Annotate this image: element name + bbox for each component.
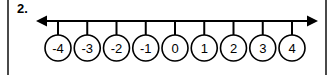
number-point-4[interactable]: 4	[279, 35, 305, 61]
worksheet-canvas: 2. -4-3-2-101234	[0, 0, 333, 75]
arrow-left-icon	[36, 16, 47, 27]
arrow-right-icon	[307, 16, 318, 27]
point-label: 1	[201, 41, 208, 56]
point-label: -3	[81, 41, 93, 56]
number-point--3[interactable]: -3	[74, 35, 100, 61]
number-points-group: -4-3-2-101234	[45, 35, 305, 61]
number-point--4[interactable]: -4	[45, 35, 71, 61]
point-label: -4	[52, 41, 64, 56]
point-label: 0	[171, 41, 178, 56]
number-point-2[interactable]: 2	[221, 35, 247, 61]
point-label: -2	[111, 41, 123, 56]
number-point-0[interactable]: 0	[162, 35, 188, 61]
point-label: 2	[230, 41, 237, 56]
number-point-3[interactable]: 3	[250, 35, 276, 61]
number-point-1[interactable]: 1	[191, 35, 217, 61]
number-point--2[interactable]: -2	[104, 35, 130, 61]
tick-marks-group	[58, 21, 292, 35]
number-line-svg: -4-3-2-101234	[0, 0, 333, 75]
point-label: 3	[259, 41, 266, 56]
number-line-axis	[36, 16, 318, 27]
number-point--1[interactable]: -1	[133, 35, 159, 61]
point-label: 4	[288, 41, 295, 56]
point-label: -1	[140, 41, 152, 56]
number-line-figure: -4-3-2-101234	[0, 0, 333, 75]
